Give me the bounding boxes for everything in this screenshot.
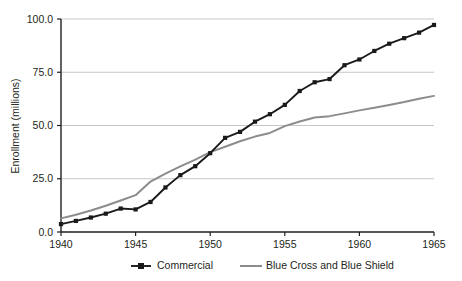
commercial-data-point-1944 — [119, 206, 123, 210]
commercial-markers-group — [59, 23, 436, 226]
commercial-data-point-1963 — [402, 36, 406, 40]
commercial-data-point-1957 — [313, 80, 317, 84]
commercial-data-point-1951 — [223, 136, 227, 140]
commercial-data-point-1948 — [178, 173, 182, 177]
x-tick-label-1965: 1965 — [422, 238, 446, 250]
y-axis-ticks-group: 0.025.050.075.0100.0 — [27, 13, 61, 238]
x-tick-label-1940: 1940 — [49, 238, 73, 250]
commercial-data-point-1950 — [208, 151, 212, 155]
commercial-data-point-1960 — [357, 57, 361, 61]
commercial-data-point-1954 — [268, 112, 272, 116]
commercial-data-point-1946 — [148, 200, 152, 204]
commercial-line-path — [61, 25, 434, 224]
commercial-data-point-1955 — [283, 103, 287, 107]
commercial-data-point-1965 — [432, 23, 436, 27]
commercial-data-point-1942 — [89, 215, 93, 219]
commercial-data-point-1945 — [134, 207, 138, 211]
x-tick-label-1950: 1950 — [199, 238, 223, 250]
commercial-data-point-1952 — [238, 130, 242, 134]
x-tick-label-1955: 1955 — [273, 238, 297, 250]
y-tick-label-100: 100.0 — [27, 13, 53, 25]
x-tick-label-1960: 1960 — [348, 238, 372, 250]
enrollment-line-chart: 0.025.050.075.0100.0 1940194519501955196… — [0, 0, 462, 281]
y-tick-label-25: 25.0 — [33, 172, 54, 184]
commercial-data-point-1947 — [163, 185, 167, 189]
commercial-data-point-1964 — [417, 31, 421, 35]
commercial-data-point-1956 — [298, 89, 302, 93]
series-blue-cross-and-blue-shield — [61, 96, 434, 218]
y-tick-label-75: 75.0 — [33, 66, 54, 78]
y-tick-label-0: 0.0 — [38, 226, 53, 238]
legend-label-commercial: Commercial — [157, 259, 213, 271]
x-tick-label-1945: 1945 — [124, 238, 148, 250]
bcbs-line-path — [61, 96, 434, 218]
commercial-data-point-1941 — [74, 219, 78, 223]
commercial-data-point-1961 — [372, 49, 376, 53]
chart-legend: Commercial Blue Cross and Blue Shield — [131, 259, 394, 271]
commercial-data-point-1943 — [104, 212, 108, 216]
commercial-data-point-1962 — [387, 42, 391, 46]
commercial-data-point-1949 — [193, 164, 197, 168]
legend-label-blue-cross-and-blue-shield: Blue Cross and Blue Shield — [266, 259, 394, 271]
series-commercial — [59, 23, 436, 226]
commercial-data-point-1953 — [253, 120, 257, 124]
commercial-data-point-1959 — [342, 63, 346, 67]
commercial-data-point-1958 — [327, 77, 331, 81]
legend-marker-commercial — [138, 263, 144, 269]
chart-container: 0.025.050.075.0100.0 1940194519501955196… — [0, 0, 462, 281]
gridlines-group — [61, 19, 434, 179]
y-axis-title: Enrollment (millions) — [9, 78, 21, 173]
commercial-data-point-1940 — [59, 222, 63, 226]
x-axis-ticks-group: 194019451950195519601965 — [49, 232, 446, 250]
y-tick-label-50: 50.0 — [33, 119, 54, 131]
